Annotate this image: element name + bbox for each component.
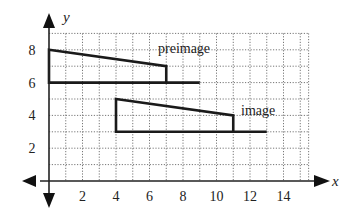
x-axis-left-arrow-icon [22, 175, 36, 187]
y-tick-labels: 2468 [29, 43, 36, 156]
y-axis-label: y [61, 9, 70, 25]
coordinate-plane: x y 2468101214 2468 preimage image [0, 0, 348, 215]
y-axis-up-arrow-icon [43, 13, 55, 28]
image-label: image [241, 103, 275, 118]
x-tick-label: 2 [79, 189, 86, 204]
y-tick-label: 6 [29, 76, 36, 91]
x-tick-label: 10 [210, 189, 224, 204]
x-tick-label: 14 [277, 189, 291, 204]
y-tick-label: 2 [29, 141, 36, 156]
x-tick-label: 6 [146, 189, 153, 204]
y-tick-label: 8 [29, 43, 36, 58]
x-tick-label: 4 [113, 189, 120, 204]
y-axis-down-arrow-icon [43, 193, 55, 208]
x-tick-label: 8 [180, 189, 187, 204]
preimage-label: preimage [158, 41, 210, 56]
x-axis-label: x [331, 173, 339, 189]
x-tick-label: 12 [243, 189, 257, 204]
shapes [49, 50, 267, 132]
y-tick-label: 4 [29, 108, 36, 123]
x-axis-right-arrow-icon [314, 175, 330, 187]
x-tick-labels: 2468101214 [79, 189, 291, 204]
